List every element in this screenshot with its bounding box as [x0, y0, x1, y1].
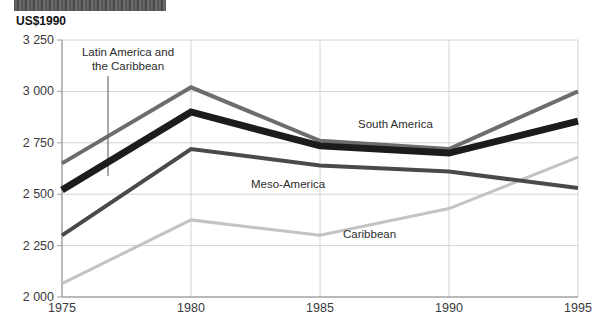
series-label-meso-america: Meso-America [251, 178, 325, 190]
y-axis-tick-label: 2 750 [6, 136, 54, 150]
y-axis-tick-label: 2 000 [6, 290, 54, 304]
y-axis-tick-label: 2 250 [6, 239, 54, 253]
series-label-caribbean: Caribbean [343, 228, 396, 240]
x-axis-tick-label: 1990 [435, 301, 463, 315]
y-axis-tick-label: 3 250 [6, 33, 54, 47]
x-axis-tick-label: 1980 [177, 301, 205, 315]
lac-label-line2: the Caribbean [64, 60, 192, 74]
x-axis-tick-label: 1985 [306, 301, 334, 315]
lac-label-line1: Latin America and [82, 46, 174, 58]
y-axis-tick-label: 2 500 [6, 187, 54, 201]
series-label-latin-america-and-the-caribbean: Latin America and the Caribbean [64, 46, 192, 73]
series-label-south-america: South America [358, 118, 433, 130]
x-axis-tick-label: 1995 [564, 301, 592, 315]
x-axis-tick-label: 1975 [48, 301, 76, 315]
y-axis-tick-label: 3 000 [6, 84, 54, 98]
